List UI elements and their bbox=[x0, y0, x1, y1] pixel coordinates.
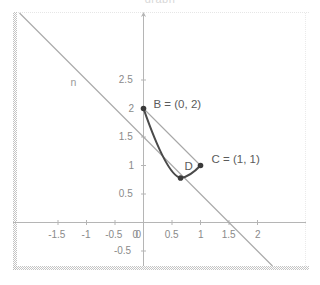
y-tick-label: 0.5 bbox=[119, 189, 133, 199]
y-tick-label: 1.5 bbox=[119, 132, 133, 142]
point-label-d: D bbox=[185, 161, 193, 173]
x-tick-label: -1.5 bbox=[48, 230, 65, 240]
y-tick-label: -0.5 bbox=[114, 246, 131, 256]
geometry-figure: graph -1.5-1-0.500.511.52-0.50.511.522.5… bbox=[0, 0, 320, 285]
x-tick-label: -1 bbox=[82, 230, 91, 240]
y-tick-label: 2.5 bbox=[119, 75, 133, 85]
plot-area: -1.5-1-0.500.511.52-0.50.511.522.50nB = … bbox=[0, 0, 320, 285]
chord-bc bbox=[144, 109, 201, 166]
point-label-c: C = (1, 1) bbox=[212, 154, 260, 166]
x-tick-label: -0.5 bbox=[105, 230, 122, 240]
x-tick-label: 1 bbox=[198, 230, 204, 240]
line-n-label: n bbox=[71, 77, 77, 88]
point-c[interactable] bbox=[198, 163, 204, 169]
y-tick-label: 2 bbox=[129, 104, 135, 114]
point-d[interactable] bbox=[178, 175, 184, 181]
plot-canvas bbox=[0, 0, 320, 285]
x-tick-label: 1.5 bbox=[222, 230, 236, 240]
origin-label: 0 bbox=[133, 230, 139, 240]
point-label-b: B = (0, 2) bbox=[154, 99, 202, 111]
x-tick-label: 0.5 bbox=[165, 230, 179, 240]
x-tick-label: 2 bbox=[255, 230, 261, 240]
y-tick-label: 1 bbox=[129, 161, 135, 171]
point-b[interactable] bbox=[141, 106, 147, 112]
